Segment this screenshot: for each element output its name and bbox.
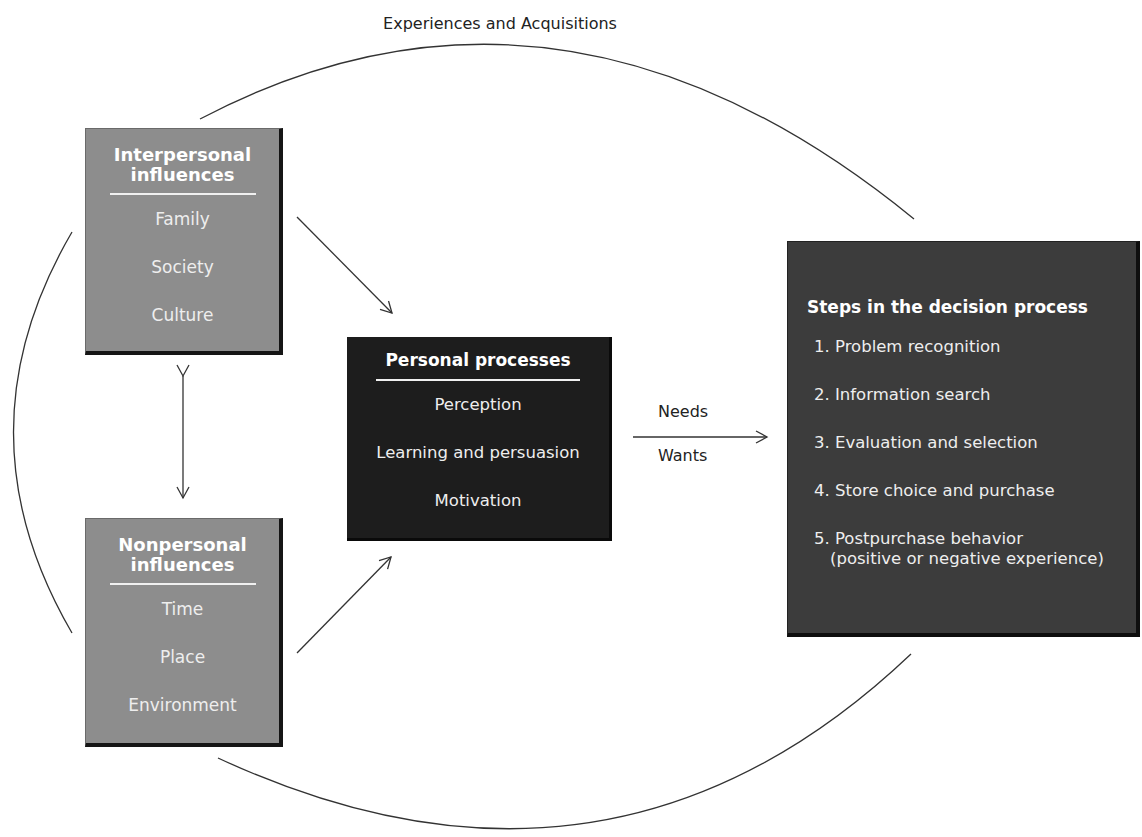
needs-label: Needs (658, 402, 708, 421)
decision-step: 1. Problem recognition (788, 323, 1136, 371)
arrow-interpersonal-to-personal (297, 217, 392, 313)
decision-step: 4. Store choice and purchase (788, 467, 1136, 515)
decision-steps-title: Steps in the decision process (788, 242, 1136, 317)
decision-step-label: 5. Postpurchase behavior (814, 529, 1023, 548)
nonpersonal-title: Nonpersonal influences (86, 519, 279, 575)
process-item: Motivation (347, 477, 609, 525)
decision-step-note: (positive or negative experience) (814, 549, 1136, 569)
top-cycle-arc (200, 44, 914, 219)
experiences-acquisitions-label: Experiences and Acquisitions (370, 14, 630, 33)
influence-item: Family (86, 195, 279, 243)
nonpersonal-title-line1: Nonpersonal (86, 535, 279, 555)
interpersonal-title-line1: Interpersonal (86, 145, 279, 165)
influence-item: Environment (86, 681, 279, 729)
interpersonal-influences-box: Interpersonal influences Family Society … (85, 128, 283, 355)
influence-item: Time (86, 585, 279, 633)
process-item: Learning and persuasion (347, 429, 609, 477)
nonpersonal-influences-box: Nonpersonal influences Time Place Enviro… (85, 518, 283, 747)
nonpersonal-title-line2: influences (86, 555, 279, 575)
interpersonal-title-line2: influences (86, 165, 279, 185)
arrow-nonpersonal-to-personal (297, 557, 391, 653)
influence-item: Place (86, 633, 279, 681)
process-item: Perception (347, 381, 609, 429)
interpersonal-title: Interpersonal influences (86, 129, 279, 185)
wants-label: Wants (658, 446, 707, 465)
decision-step: 2. Information search (788, 371, 1136, 419)
left-cycle-arc (14, 232, 73, 633)
influence-item: Culture (86, 291, 279, 339)
influence-item: Society (86, 243, 279, 291)
decision-steps-box: Steps in the decision process 1. Problem… (787, 241, 1140, 637)
personal-processes-title: Personal processes (347, 337, 609, 370)
personal-processes-box: Personal processes Perception Learning a… (347, 337, 612, 541)
decision-step: 3. Evaluation and selection (788, 419, 1136, 467)
bottom-cycle-arc (218, 654, 911, 829)
decision-step: 5. Postpurchase behavior (positive or ne… (788, 515, 1136, 569)
